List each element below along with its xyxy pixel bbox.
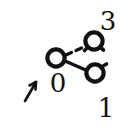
node-label-0: 0: [50, 68, 67, 98]
graph-diagram-canvas: 0 3 1: [0, 0, 132, 131]
node-0[interactable]: [47, 49, 64, 66]
node-label-3: 3: [100, 6, 117, 36]
direction-arrow-head-right: [36, 82, 37, 90]
node-3-left-foot-icon: [85, 48, 88, 51]
node-label-1: 1: [98, 93, 115, 123]
node-1[interactable]: [86, 64, 106, 82]
node-3-right-foot-icon: [101, 48, 104, 51]
node-0-circle-icon: [47, 49, 64, 66]
figure-root: 0 3 1: [0, 0, 132, 131]
